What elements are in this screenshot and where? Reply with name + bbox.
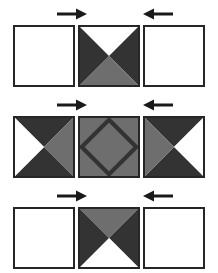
arrow-right-icon [57, 99, 87, 111]
tile-bowtie-white-left-gray-right [13, 116, 75, 178]
arrow-right-icon [57, 8, 87, 20]
tile-blank [143, 207, 205, 269]
figure-canvas [0, 0, 218, 273]
tile-hourglass-gray-top-white-bottom [78, 207, 140, 269]
tile-blank [13, 207, 75, 269]
tile-row [0, 91, 218, 182]
arrow-strip [0, 97, 218, 113]
arrow-left-icon [143, 8, 173, 20]
arrow-right-icon [57, 190, 87, 202]
tile-gray-with-diamond [78, 116, 140, 178]
arrow-left-icon [143, 190, 173, 202]
tile-bowtie-gray-left-white-right [143, 116, 205, 178]
arrow-left-icon [143, 99, 173, 111]
arrow-strip [0, 188, 218, 204]
tile-blank [13, 25, 75, 87]
tile-blank [143, 25, 205, 87]
tile-row [0, 182, 218, 273]
tile-row [0, 0, 218, 91]
tile-hourglass-white-top-gray-bottom [78, 25, 140, 87]
arrow-strip [0, 6, 218, 22]
